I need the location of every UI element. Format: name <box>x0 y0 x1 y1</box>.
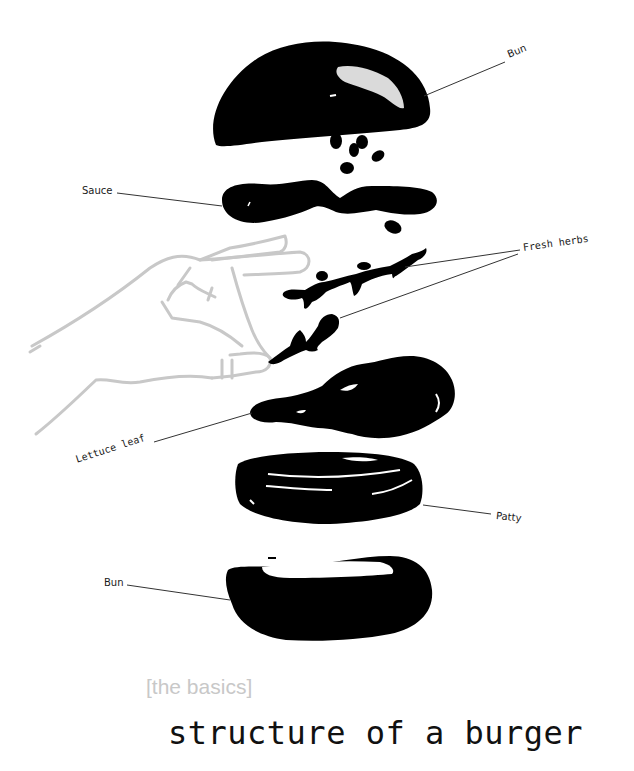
lettuce-leaf <box>250 356 455 438</box>
fresh-herbs <box>283 248 427 309</box>
bottom-bun <box>226 556 432 641</box>
leader-line-bottom-bun <box>127 585 230 600</box>
label-bottom-bun: Bun <box>104 578 124 588</box>
page-title: structure of a burger <box>168 717 583 749</box>
leader-line-sauce <box>117 193 222 206</box>
label-sauce: Sauce <box>82 186 112 196</box>
sauce <box>222 180 437 236</box>
leader-line-lettuce <box>154 413 252 442</box>
leader-line-patty <box>423 505 491 514</box>
leader-line-top-bun <box>424 62 505 96</box>
subtitle: [the basics] <box>146 676 252 697</box>
top-bun <box>213 41 430 174</box>
patty <box>235 452 422 524</box>
burger-illustration <box>0 0 634 771</box>
fresh-herbs-lower <box>268 314 339 364</box>
